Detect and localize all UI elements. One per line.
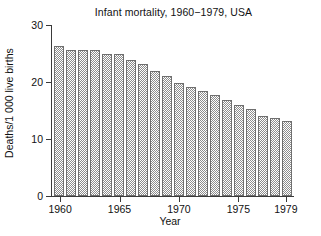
bar	[174, 83, 184, 196]
bar	[138, 64, 148, 196]
y-axis-tick	[46, 25, 51, 26]
bar	[90, 50, 100, 196]
infant-mortality-bar-chart: Infant mortality, 1960−1979, USA Deaths/…	[0, 0, 321, 236]
bar	[150, 71, 160, 196]
y-axis-tick	[46, 139, 51, 140]
bar	[198, 91, 208, 196]
bar	[186, 87, 196, 196]
x-axis-line	[51, 196, 294, 197]
x-axis-tick-label: 1960	[38, 203, 82, 216]
bar	[114, 54, 124, 197]
bar	[102, 54, 112, 197]
x-axis-tick	[238, 197, 239, 202]
bar	[270, 118, 280, 196]
y-axis-tick-label: 0	[3, 191, 43, 202]
x-axis-tick	[179, 197, 180, 202]
bar	[126, 60, 136, 196]
bar	[54, 46, 64, 196]
y-axis-title: Deaths/1 000 live births	[2, 5, 16, 201]
bar	[66, 50, 76, 196]
y-axis-tick-label: 10	[3, 134, 43, 145]
y-axis-tick	[46, 82, 51, 83]
x-axis-tick	[60, 197, 61, 202]
x-axis-tick-label: 1975	[216, 203, 260, 216]
y-axis-tick-label: 20	[3, 77, 43, 88]
bar	[78, 50, 88, 196]
y-axis-tick-label: 30	[3, 20, 43, 31]
x-axis-tick	[286, 197, 287, 202]
y-axis-tick	[46, 196, 51, 197]
bar	[210, 95, 220, 196]
y-axis-line	[51, 25, 52, 197]
bar	[162, 76, 172, 196]
x-axis-tick-label: 1970	[157, 203, 201, 216]
bar	[234, 105, 244, 196]
chart-title: Infant mortality, 1960−1979, USA	[0, 6, 321, 18]
x-axis-title: Year	[45, 215, 295, 227]
bar	[222, 100, 232, 196]
x-axis-tick-label: 1965	[98, 203, 142, 216]
x-axis-tick-label: 1979	[264, 203, 308, 216]
bar	[282, 121, 292, 196]
bar	[258, 116, 268, 196]
x-axis-tick	[120, 197, 121, 202]
bar	[246, 109, 256, 196]
plot-area	[53, 25, 293, 196]
